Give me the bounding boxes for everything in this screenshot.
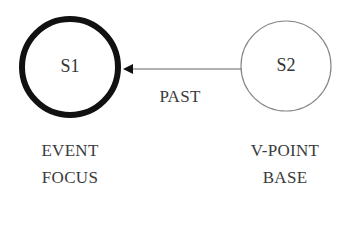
caption-line: FOCUS [20,167,120,189]
caption-line: EVENT [20,140,120,162]
arrowhead-icon [123,64,133,74]
node-s1-label: S1 [45,56,95,77]
edge-past-label: PAST [145,86,215,108]
caption-line: V-POINT [230,140,340,162]
caption-line: BASE [230,167,340,189]
node-s2-caption: V-POINT BASE [230,140,340,189]
node-s2-label: S2 [261,55,311,76]
node-s1-caption: EVENT FOCUS [20,140,120,189]
